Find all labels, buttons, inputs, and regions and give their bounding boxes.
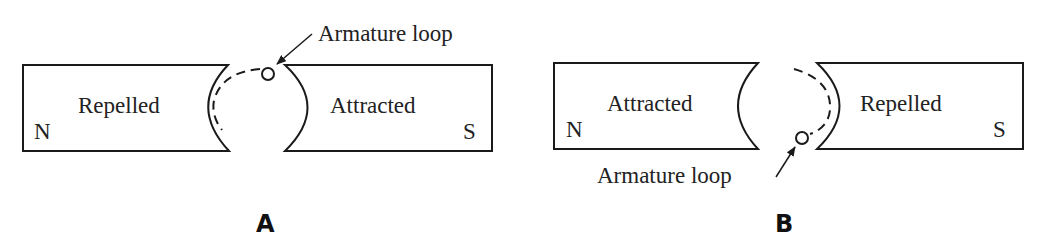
rotation-path-a — [213, 69, 260, 130]
caption-a: A — [256, 210, 275, 238]
right-magnet-label-a: Attracted — [330, 93, 416, 118]
rotation-path-b — [794, 69, 830, 134]
right-magnet-label-b: Repelled — [860, 91, 942, 116]
figure-b: Armature loop Attracted Repelled N S B — [554, 63, 1023, 238]
armature-label-a: Armature loop — [318, 21, 453, 46]
pointer-arrow-icon-b — [776, 147, 795, 177]
north-pole-label-a: N — [34, 119, 51, 144]
armature-loop-icon-a — [262, 68, 274, 80]
caption-b: B — [775, 210, 793, 238]
left-magnet-label-b: Attracted — [607, 91, 693, 116]
pointer-arrow-icon-a — [277, 34, 312, 64]
north-pole-label-b: N — [566, 117, 583, 142]
armature-label-b: Armature loop — [597, 163, 732, 188]
armature-loop-icon-b — [796, 132, 808, 144]
figure-a: Armature loop Repelled Attracted N S A — [23, 21, 492, 238]
left-magnet-label-a: Repelled — [78, 93, 160, 118]
south-pole-label-b: S — [993, 117, 1006, 142]
motor-diagram: Armature loop Repelled Attracted N S A A… — [0, 0, 1049, 246]
south-pole-label-a: S — [463, 119, 476, 144]
